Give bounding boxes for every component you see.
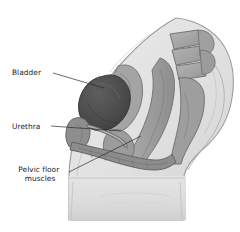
label-pelvic-floor-muscles: Pelvic floor muscles: [18, 165, 61, 183]
labels-group: Bladder Urethra Pelvic floor muscles: [12, 68, 62, 183]
label-pelvic-floor-line-1: Pelvic floor: [18, 165, 60, 174]
illustration-canvas: Bladder Urethra Pelvic floor muscles: [0, 0, 240, 232]
label-urethra: Urethra: [12, 122, 40, 131]
label-bladder: Bladder: [12, 68, 42, 77]
thigh-region: [69, 176, 186, 220]
label-pelvic-floor-line-2: muscles: [25, 174, 56, 183]
pelvic-anatomy-figure: Bladder Urethra Pelvic floor muscles: [0, 0, 240, 232]
